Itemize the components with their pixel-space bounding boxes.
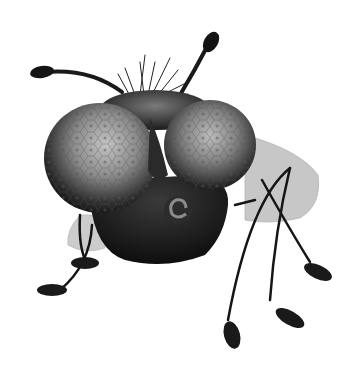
antenna-left	[29, 64, 122, 92]
fly-illustration	[0, 0, 356, 370]
head-bristles	[118, 55, 188, 96]
eye-right	[164, 100, 256, 190]
eye-left	[44, 103, 156, 213]
proboscis-icon	[164, 196, 192, 224]
antenna-right	[180, 29, 223, 95]
feet	[37, 257, 335, 351]
